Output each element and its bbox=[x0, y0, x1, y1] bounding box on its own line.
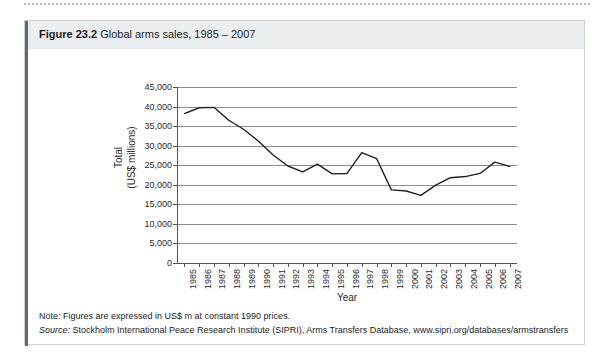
chart-area: Total (US$ millions) 45,00040,00035,0003… bbox=[25, 49, 586, 304]
figure-title-text: Global arms sales, 1985 – 2007 bbox=[100, 28, 255, 40]
x-axis-tick-label: 1997 bbox=[365, 269, 375, 289]
x-axis-tick bbox=[303, 263, 304, 267]
y-axis-tick-label: 45,000 bbox=[144, 82, 172, 92]
figure-note: Note: Figures are expressed in US$ m at … bbox=[39, 309, 574, 323]
x-axis-tick bbox=[377, 263, 378, 267]
x-axis-tick-label: 1992 bbox=[291, 269, 301, 289]
x-axis-tick bbox=[450, 263, 451, 267]
figure-caption: Figure 23.2 Global arms sales, 1985 – 20… bbox=[39, 28, 255, 40]
y-axis-tick-label: 40,000 bbox=[144, 102, 172, 112]
y-axis-tick-label: 25,000 bbox=[144, 160, 172, 170]
figure-source: Source: Stockholm International Peace Re… bbox=[39, 323, 574, 337]
x-axis-tick-label: 1987 bbox=[217, 269, 227, 289]
x-axis-tick-label: 1990 bbox=[262, 269, 272, 289]
figure-page: Figure 23.2 Global arms sales, 1985 – 20… bbox=[0, 0, 605, 360]
x-axis-tick-label: 2007 bbox=[513, 269, 523, 289]
x-axis-tick bbox=[258, 263, 259, 267]
x-axis-tick-label: 1988 bbox=[232, 269, 242, 289]
figure-footnotes: Note: Figures are expressed in US$ m at … bbox=[39, 309, 574, 338]
x-axis-tick bbox=[317, 263, 318, 267]
y-axis-tick-label: 10,000 bbox=[144, 219, 172, 229]
x-axis-tick bbox=[480, 263, 481, 267]
y-axis-tick-label: 20,000 bbox=[144, 180, 172, 190]
source-label: Source: bbox=[39, 325, 70, 335]
x-axis-tick-label: 2001 bbox=[424, 269, 434, 289]
y-axis-tick-label: 30,000 bbox=[144, 141, 172, 151]
y-axis-title: Total (US$ millions) bbox=[113, 118, 138, 198]
y-axis-title-line2: (US$ millions) bbox=[125, 118, 138, 198]
figure-container: Figure 23.2 Global arms sales, 1985 – 20… bbox=[24, 20, 585, 345]
figure-number: Figure 23.2 bbox=[39, 28, 97, 40]
x-axis-tick bbox=[199, 263, 200, 267]
x-axis-tick bbox=[436, 263, 437, 267]
x-axis-tick bbox=[244, 263, 245, 267]
x-axis-tick-label: 1989 bbox=[247, 269, 257, 289]
y-axis-tick-label: 0 bbox=[167, 258, 172, 268]
x-axis-tick-label: 2004 bbox=[469, 269, 479, 289]
x-axis-tick bbox=[391, 263, 392, 267]
x-axis-tick bbox=[465, 263, 466, 267]
x-axis-tick bbox=[273, 263, 274, 267]
x-axis-tick-label: 2000 bbox=[410, 269, 420, 289]
x-axis-tick bbox=[510, 263, 511, 267]
x-axis-tick bbox=[214, 263, 215, 267]
x-axis-tick bbox=[332, 263, 333, 267]
x-axis-tick-label: 2005 bbox=[484, 269, 494, 289]
x-axis-tick bbox=[421, 263, 422, 267]
x-axis-tick bbox=[406, 263, 407, 267]
arms-sales-line-series bbox=[177, 87, 517, 263]
x-axis-tick bbox=[495, 263, 496, 267]
y-axis-tick-label: 15,000 bbox=[144, 199, 172, 209]
x-axis-tick-label: 1994 bbox=[321, 269, 331, 289]
source-text: Stockholm International Peace Research I… bbox=[70, 325, 568, 335]
x-axis-tick-label: 2002 bbox=[439, 269, 449, 289]
x-axis-tick-label: 1996 bbox=[351, 269, 361, 289]
x-axis-tick-label: 1999 bbox=[395, 269, 405, 289]
page-top-divider bbox=[24, 3, 590, 5]
x-axis-tick-label: 1995 bbox=[336, 269, 346, 289]
x-axis-tick bbox=[362, 263, 363, 267]
x-axis-tick-label: 1986 bbox=[203, 269, 213, 289]
x-axis-tick bbox=[347, 263, 348, 267]
x-axis-tick bbox=[229, 263, 230, 267]
y-axis-title-line1: Total bbox=[113, 118, 126, 198]
x-axis-tick-label: 1998 bbox=[380, 269, 390, 289]
x-axis-tick-label: 1991 bbox=[277, 269, 287, 289]
x-axis-tick-label: 2003 bbox=[454, 269, 464, 289]
y-axis-tick-label: 5,000 bbox=[149, 238, 172, 248]
y-axis-tick-label: 35,000 bbox=[144, 121, 172, 131]
plot-area: 45,00040,00035,00030,00025,00020,00015,0… bbox=[177, 87, 517, 263]
x-axis-tick-label: 1993 bbox=[306, 269, 316, 289]
x-axis-tick-label: 2006 bbox=[498, 269, 508, 289]
x-axis-tick bbox=[184, 263, 185, 267]
x-axis-tick bbox=[288, 263, 289, 267]
x-axis-tick-label: 1985 bbox=[188, 269, 198, 289]
x-axis-title: Year bbox=[177, 292, 517, 303]
